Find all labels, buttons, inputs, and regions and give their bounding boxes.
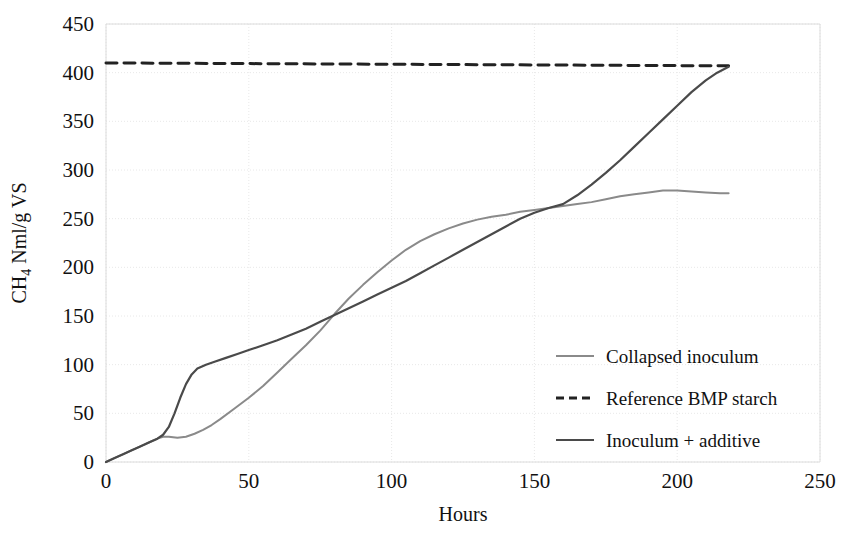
x-axis-title: Hours [439, 503, 488, 525]
y-tick-label: 100 [63, 353, 95, 377]
legend-label-1: Reference BMP starch [606, 388, 778, 409]
x-tick-label: 100 [376, 469, 408, 493]
y-tick-label: 400 [63, 61, 95, 85]
x-axis-tick-labels: 050100150200250 [101, 469, 836, 493]
y-axis-title: CH4 Nml/g VS [8, 182, 34, 303]
y-tick-label: 0 [84, 450, 95, 474]
x-tick-label: 150 [519, 469, 551, 493]
legend-label-2: Inoculum + additive [606, 430, 760, 451]
legend-label-0: Collapsed inoculum [606, 346, 759, 367]
y-tick-label: 200 [63, 255, 95, 279]
x-tick-label: 200 [661, 469, 693, 493]
y-tick-label: 150 [63, 304, 95, 328]
series-line-1 [106, 63, 729, 66]
y-tick-label: 50 [73, 401, 94, 425]
series-line-0 [106, 190, 729, 462]
line-chart: 050100150200250 050100150200250300350400… [0, 0, 863, 545]
chart-legend: Collapsed inoculumReference BMP starchIn… [556, 346, 778, 451]
y-axis-tick-labels: 050100150200250300350400450 [63, 12, 95, 474]
y-tick-label: 350 [63, 109, 95, 133]
chart-container: 050100150200250 050100150200250300350400… [0, 0, 863, 545]
x-tick-label: 50 [238, 469, 259, 493]
x-tick-label: 250 [804, 469, 836, 493]
y-tick-label: 300 [63, 158, 95, 182]
y-tick-label: 250 [63, 207, 95, 231]
x-tick-label: 0 [101, 469, 112, 493]
y-tick-label: 450 [63, 12, 95, 36]
